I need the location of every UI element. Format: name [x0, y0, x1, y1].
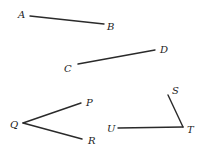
segment-cd — [78, 50, 155, 64]
segment-ab — [30, 16, 104, 24]
ray-qr — [23, 123, 82, 139]
label-a: A — [17, 9, 25, 20]
label-r: R — [87, 135, 96, 146]
ray-tu — [118, 127, 183, 128]
label-u: U — [107, 123, 116, 134]
geometry-diagram: A B C D P Q R S T U — [0, 0, 204, 150]
label-q: Q — [10, 119, 18, 130]
label-b: B — [106, 21, 114, 32]
label-c: C — [64, 63, 72, 74]
label-p: P — [85, 97, 93, 108]
label-t: T — [187, 124, 195, 135]
ray-ts — [168, 95, 183, 127]
ray-qp — [23, 103, 81, 123]
label-d: D — [159, 44, 168, 55]
label-s: S — [172, 85, 179, 96]
